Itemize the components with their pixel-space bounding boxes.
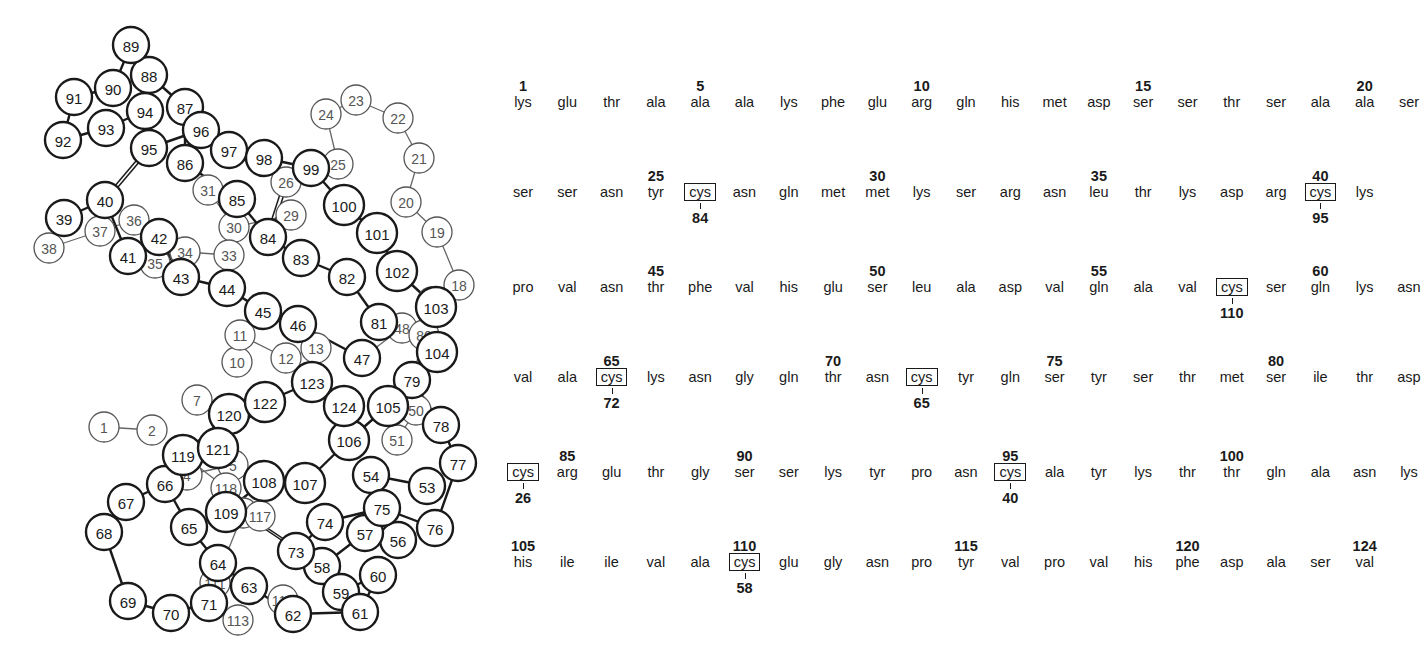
svg-text:30: 30 — [226, 220, 242, 236]
residue-node: 82 — [329, 259, 365, 295]
residue-number — [501, 168, 545, 184]
svg-text:98: 98 — [256, 151, 273, 168]
disulfide-partner-number: 110 — [1210, 305, 1254, 321]
residue-number — [1298, 538, 1342, 554]
residue-number: 115 — [944, 538, 988, 554]
residue-name: ile — [545, 554, 589, 570]
residue-name: asn — [855, 369, 899, 385]
residue-number — [944, 168, 988, 184]
residue-node: 95 — [131, 130, 167, 166]
residue-number — [501, 448, 545, 464]
residue-number — [855, 448, 899, 464]
residue-name: phe — [1166, 554, 1210, 570]
residue-name: cys — [988, 464, 1032, 480]
svg-text:7: 7 — [193, 393, 201, 409]
residue-number — [1254, 538, 1298, 554]
disulfide-partner-number: 84 — [678, 210, 722, 226]
residue-name: lys — [634, 369, 678, 385]
residue-number — [988, 263, 1032, 279]
residue-number — [723, 263, 767, 279]
residue-name: tyr — [1077, 369, 1121, 385]
svg-text:97: 97 — [221, 143, 238, 160]
residue-name: ile — [1298, 369, 1342, 385]
svg-text:46: 46 — [290, 317, 307, 334]
residue-node: 90 — [95, 70, 131, 106]
disulfide-tick — [523, 483, 524, 489]
svg-text:66: 66 — [157, 477, 174, 494]
residue-number — [678, 168, 722, 184]
residue-name: ser — [723, 464, 767, 480]
residue-number — [1298, 78, 1342, 94]
residue-node: 69 — [110, 583, 146, 619]
residue-number: 80 — [1254, 353, 1298, 369]
residue-node: 108 — [244, 461, 284, 501]
residue-node: 65 — [171, 509, 207, 545]
residue-node: 94 — [127, 93, 163, 129]
residue-number — [1033, 78, 1077, 94]
residue-node: 62 — [275, 596, 311, 632]
residue-name: lys — [1166, 184, 1210, 200]
residue-number — [1077, 448, 1121, 464]
sequence-row: cys2685arggluthrgly90serserlystyrproasn9… — [505, 440, 1405, 520]
residue-number — [811, 448, 855, 464]
residue-name: ser — [1033, 369, 1077, 385]
residue-number — [988, 168, 1032, 184]
residue-number — [723, 353, 767, 369]
residue-node: 81 — [361, 304, 397, 340]
residue-name: pro — [1033, 554, 1077, 570]
residue-name: cys — [678, 184, 722, 200]
residue-name: ser — [501, 184, 545, 200]
residue-number — [545, 78, 589, 94]
residue-number — [1121, 448, 1165, 464]
svg-text:51: 51 — [389, 433, 405, 449]
residue-node: 98 — [246, 140, 282, 176]
residue-number — [590, 263, 634, 279]
residue-node: 51 — [382, 425, 412, 455]
residue-name: val — [1077, 554, 1121, 570]
residue-node: 101 — [357, 213, 397, 253]
residue-name: ser — [1166, 94, 1210, 110]
residue-name: ala — [1298, 94, 1342, 110]
svg-text:93: 93 — [98, 121, 115, 138]
residue-name: asp — [1210, 184, 1254, 200]
residue-number — [1210, 353, 1254, 369]
svg-text:53: 53 — [419, 479, 436, 496]
residue-number — [1077, 538, 1121, 554]
svg-text:31: 31 — [200, 183, 216, 199]
residue-node: 102 — [377, 251, 417, 291]
svg-text:76: 76 — [427, 521, 444, 538]
svg-text:83: 83 — [293, 251, 310, 268]
residue-name: arg — [545, 464, 589, 480]
residue-name: met — [855, 184, 899, 200]
residue-number: 1 — [501, 78, 545, 94]
residue-name: lys — [1387, 464, 1425, 480]
residue-number — [1121, 168, 1165, 184]
residue-name: lys — [1343, 279, 1387, 295]
residue-node: 63 — [231, 568, 267, 604]
residue-name: thr — [1166, 369, 1210, 385]
residue-name: pro — [900, 554, 944, 570]
residue-name: lys — [501, 94, 545, 110]
residue-number — [900, 353, 944, 369]
residue-number: 90 — [723, 448, 767, 464]
residue-number — [944, 263, 988, 279]
disulfide-tick — [1320, 203, 1321, 209]
residue-node: 99 — [293, 150, 329, 186]
residue-number — [1254, 263, 1298, 279]
residue-name: gln — [1077, 279, 1121, 295]
svg-text:70: 70 — [163, 606, 180, 623]
residue-number — [1343, 448, 1387, 464]
residue-name: ala — [723, 94, 767, 110]
residue-name: thr — [590, 94, 634, 110]
residue-node: 10 — [222, 347, 252, 377]
svg-text:109: 109 — [213, 505, 238, 522]
svg-text:102: 102 — [384, 264, 409, 281]
disulfide-partner-number: 58 — [723, 580, 767, 596]
svg-text:119: 119 — [171, 448, 195, 465]
residue-number — [590, 168, 634, 184]
residue-node: 23 — [341, 85, 371, 115]
residue-name: val — [1166, 279, 1210, 295]
residue-name: ala — [944, 279, 988, 295]
svg-text:36: 36 — [126, 213, 142, 229]
residue-node: 78 — [423, 407, 459, 443]
